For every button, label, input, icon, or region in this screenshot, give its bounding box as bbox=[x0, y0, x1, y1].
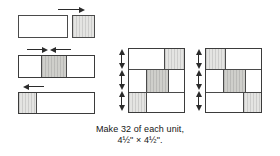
step-1-light-rectangle bbox=[18, 15, 68, 38]
diagram-canvas: Make 32 of each unit, 4½" × 4½". bbox=[0, 0, 280, 156]
unit-b-seam-arrow-3-icon bbox=[198, 96, 199, 106]
caption-line-2: 4½" × 4½". bbox=[0, 135, 280, 146]
unit-a-cell-r2c3 bbox=[168, 69, 185, 93]
step-2-light-right-patch bbox=[66, 55, 95, 78]
unit-a-cell-r2c1 bbox=[128, 69, 147, 93]
unit-b-cell-r2c1 bbox=[205, 69, 224, 93]
unit-a-cell-r3c2 bbox=[146, 92, 185, 113]
unit-a-seam-arrow-2-icon bbox=[121, 75, 122, 85]
unit-a-seam-arrow-1-icon bbox=[121, 54, 122, 64]
step-2-medium-center-patch bbox=[41, 55, 67, 78]
step-2-press-arrow-right-icon bbox=[27, 49, 43, 50]
unit-b-cell-r3c1 bbox=[205, 92, 244, 113]
unit-a-cell-r1c3 bbox=[164, 48, 185, 70]
unit-b-seam-arrow-1-icon bbox=[198, 54, 199, 64]
unit-a-cell-r3c1 bbox=[128, 92, 147, 113]
unit-a-cell-r1c1 bbox=[128, 48, 165, 70]
unit-b-cell-r1c2 bbox=[225, 48, 262, 70]
unit-b-cell-r1c1 bbox=[205, 48, 226, 70]
unit-b-seam-arrow-2-icon bbox=[198, 75, 199, 85]
unit-b-cell-r2c2 bbox=[223, 69, 246, 93]
unit-b-cell-r2c3 bbox=[245, 69, 262, 93]
step-2-light-left-patch bbox=[18, 55, 42, 78]
unit-b-cell-r3c3 bbox=[243, 92, 262, 113]
unit-a-seam-arrow-3-icon bbox=[121, 96, 122, 106]
step-3-press-arrow-left-icon bbox=[28, 86, 44, 87]
unit-a-cell-r2c2 bbox=[146, 69, 169, 93]
step-3-light-rectangle bbox=[36, 92, 95, 114]
step-2-press-arrow-left-icon bbox=[55, 49, 71, 50]
step-1-medium-square bbox=[72, 15, 95, 38]
step-1-press-arrow-right-icon bbox=[58, 9, 80, 10]
caption-line-1: Make 32 of each unit, bbox=[0, 124, 280, 135]
step-3-medium-narrow-strip bbox=[18, 92, 37, 114]
